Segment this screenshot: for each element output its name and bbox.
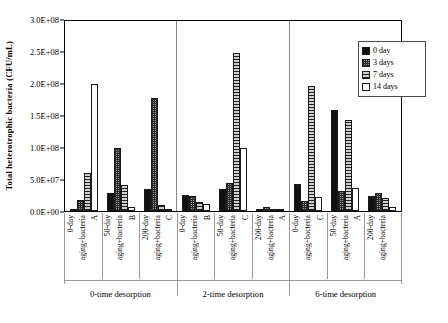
y-axis-tick-labels: 3.0E+082.5E+082.0E+081.5E+081.0E+085.0E+… — [16, 14, 64, 216]
x-label-group: 0-dayaging+bacteriaA50-dayaging+bacteria… — [64, 213, 177, 285]
bar — [368, 196, 375, 211]
bar — [107, 193, 114, 211]
bar — [151, 98, 158, 211]
chart-legend: 0 day3 days7 days14 days — [358, 41, 426, 97]
bar-group — [65, 21, 176, 211]
bar — [338, 191, 345, 211]
x-label-group: 0-dayaging+bacteriaB50-dayaging+bacteria… — [177, 213, 290, 285]
bar-cluster — [214, 21, 251, 211]
y-axis-title: Total heterotrophic bacteria (CFU/mL) — [2, 16, 16, 216]
bar — [345, 120, 352, 211]
bar-cluster — [102, 21, 139, 211]
legend-label: 7 days — [373, 71, 394, 79]
chart-figure: Total heterotrophic bacteria (CFU/mL) 3.… — [0, 0, 448, 323]
bar — [240, 148, 247, 211]
legend-item: 3 days — [362, 57, 422, 69]
bar-group — [176, 21, 288, 211]
group-label-text: 0-time desorption — [90, 289, 151, 299]
bar — [277, 209, 284, 211]
bar-cluster — [139, 21, 176, 211]
bar — [226, 183, 233, 211]
bar — [77, 200, 84, 211]
bar — [375, 193, 382, 211]
bar — [382, 198, 389, 211]
bar — [203, 204, 210, 211]
group-label-text: 6-time desorption — [315, 289, 376, 299]
bar-cluster — [177, 21, 214, 211]
bar — [301, 201, 308, 211]
bar-cluster — [252, 21, 289, 211]
bar — [91, 84, 98, 211]
legend-label: 14 days — [373, 83, 398, 91]
x-label-group: 0-dayaging+bacteriaC50-dayaging+bacteria… — [289, 213, 402, 285]
y-axis-tick-label: 3.0E+08 — [30, 16, 59, 25]
legend-item: 7 days — [362, 69, 422, 81]
x-axis-tick-labels: 0-dayaging+bacteriaA50-dayaging+bacteria… — [64, 213, 402, 285]
bar — [294, 184, 301, 211]
x-tick-cell: 200-dayaging+bacteria — [364, 213, 402, 285]
group-label-cell: 0-time desorption — [64, 284, 177, 304]
bar — [389, 207, 396, 211]
bar-cluster — [290, 21, 327, 211]
legend-swatch-horizontal-lines — [362, 71, 370, 79]
y-axis-tick-label: 2.0E+08 — [30, 80, 59, 89]
y-axis-tick-label: 2.5E+08 — [30, 48, 59, 57]
bar-groups — [65, 21, 401, 211]
legend-item: 14 days — [362, 81, 422, 93]
bar — [165, 209, 172, 211]
y-axis-tick-label: 1.5E+08 — [30, 112, 59, 121]
y-axis-tick-label: 1.0E+08 — [30, 144, 59, 153]
bar — [315, 197, 322, 211]
x-tick-label-treatment: aging+bacteria — [379, 215, 387, 260]
legend-label: 0 day — [373, 47, 391, 55]
bar — [331, 110, 338, 211]
bar — [182, 195, 189, 211]
bar — [270, 209, 277, 211]
bar — [256, 209, 263, 211]
group-label-text: 2-time desorption — [203, 289, 264, 299]
legend-label: 3 days — [373, 59, 394, 67]
x-axis-group-labels: 0-time desorption2-time desorption6-time… — [64, 284, 402, 304]
legend-swatch-cross-hatch — [362, 59, 370, 67]
bar — [84, 173, 91, 211]
bar — [128, 207, 135, 211]
bar — [144, 189, 151, 211]
group-label-cell: 2-time desorption — [177, 284, 290, 304]
group-label-cell: 6-time desorption — [289, 284, 402, 304]
y-axis-title-text: Total heterotrophic bacteria (CFU/mL) — [4, 41, 14, 191]
bar — [263, 207, 270, 211]
plot-area — [64, 20, 402, 212]
bar — [233, 53, 240, 211]
legend-item: 0 day — [362, 45, 422, 57]
bar-cluster — [65, 21, 102, 211]
bar — [219, 189, 226, 211]
bar — [352, 188, 359, 211]
legend-swatch-empty-white — [362, 83, 370, 91]
bar — [196, 202, 203, 211]
bar — [308, 86, 315, 211]
bar — [189, 196, 196, 211]
bar — [158, 205, 165, 211]
bar — [121, 185, 128, 211]
y-axis-tick-label: 5.0E+07 — [30, 176, 59, 185]
group-label-divider — [64, 280, 402, 281]
legend-swatch-solid-black — [362, 47, 370, 55]
bar — [114, 148, 121, 211]
bar — [70, 209, 77, 211]
